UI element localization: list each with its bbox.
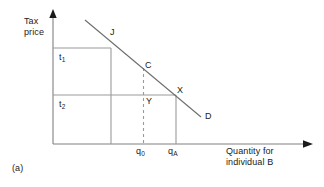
- tax-price-t1-label: t1: [59, 52, 65, 63]
- quantity-tick-q0: q0: [136, 146, 145, 157]
- y-axis-title: Taxprice: [24, 16, 44, 38]
- demand-curve-D: [85, 20, 201, 117]
- x-axis-arrowhead: [303, 140, 313, 148]
- quantity-tick-qA: qA: [168, 146, 178, 157]
- tax-price-t2-label: t2: [59, 99, 65, 110]
- point-label-Y: Y: [146, 96, 152, 107]
- figure-caption: (a): [12, 163, 23, 174]
- y-axis-title-line1: Tax: [24, 16, 38, 26]
- figure-canvas: [0, 0, 324, 187]
- t1-subscript: 1: [62, 56, 66, 63]
- y-axis-arrowhead: [49, 9, 56, 18]
- demand-curve-label-D: D: [205, 111, 212, 122]
- q0-subscript: 0: [141, 150, 145, 157]
- economics-figure: Taxprice Quantity forindividual B t1 t2 …: [0, 0, 324, 187]
- x-axis-title-line2: individual B: [226, 157, 273, 167]
- point-label-J: J: [110, 27, 115, 38]
- point-label-X: X: [177, 85, 183, 96]
- t2-subscript: 2: [62, 103, 66, 110]
- y-axis-title-line2: price: [24, 27, 44, 37]
- x-axis-title-line1: Quantity for: [226, 146, 274, 156]
- qa-subscript: A: [173, 150, 177, 157]
- x-axis-title: Quantity forindividual B: [226, 146, 274, 168]
- point-label-C: C: [145, 60, 152, 71]
